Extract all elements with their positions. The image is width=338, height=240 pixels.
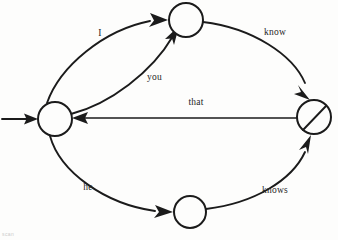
edge-knows[interactable]: knows xyxy=(206,135,311,209)
edge-he-arrowhead xyxy=(154,205,173,218)
edge-knows-label: knows xyxy=(262,185,288,195)
edge-that[interactable]: that xyxy=(72,97,297,124)
edge-knows-path xyxy=(206,152,305,209)
state-node-q2-circle xyxy=(174,196,206,228)
state-node-q1[interactable] xyxy=(169,3,203,37)
edge-i-arrowhead xyxy=(149,13,168,27)
state-node-q0[interactable] xyxy=(38,102,72,136)
edge-know-label: know xyxy=(264,27,286,37)
edge-he-label: he xyxy=(83,182,92,192)
edge-that-label: that xyxy=(188,97,203,107)
edge-he[interactable]: he xyxy=(50,136,173,218)
state-node-q3-accepting[interactable] xyxy=(297,100,331,134)
edge-he-path xyxy=(50,136,155,211)
edge-you[interactable]: you xyxy=(71,26,179,114)
edge-know-arrowhead xyxy=(294,85,310,100)
state-node-q1-circle xyxy=(169,3,203,37)
edge-know[interactable]: know xyxy=(203,22,310,100)
fsa-diagram-svg: I you know that he k xyxy=(0,0,338,240)
state-node-q2[interactable] xyxy=(174,196,206,228)
edge-i[interactable]: I xyxy=(47,13,168,103)
fsa-diagram-canvas: I you know that he k xyxy=(0,0,338,240)
edge-know-path xyxy=(203,22,305,83)
scan-artifact-text: scan xyxy=(2,231,14,237)
edge-you-label: you xyxy=(147,72,162,82)
state-node-q0-circle xyxy=(38,102,72,136)
start-arrow xyxy=(2,114,38,125)
edge-i-label: I xyxy=(98,28,101,38)
